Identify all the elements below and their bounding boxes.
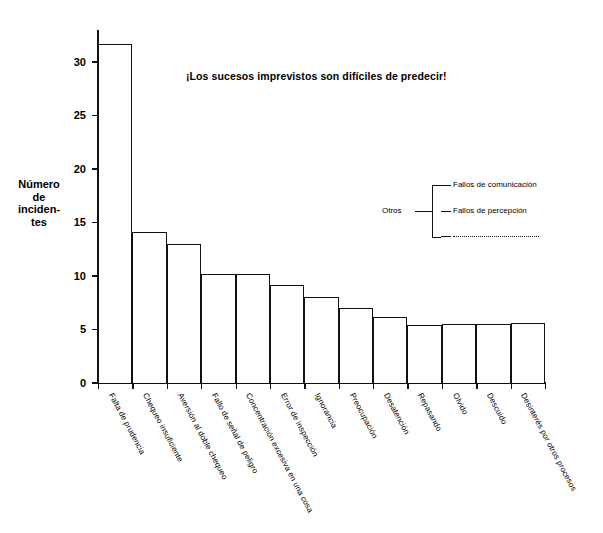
legend-connector-line — [415, 211, 433, 212]
legend-bracket — [432, 185, 441, 238]
legend-arm-3 — [441, 236, 451, 237]
legend-arm-1 — [441, 185, 451, 186]
x-axis-label: Ignorancia — [313, 392, 338, 430]
x-axis-label: Repasando — [416, 392, 443, 433]
bar-chart-figure: ¡Los sucesos imprevistos son difíciles d… — [0, 0, 603, 533]
legend-arm-2 — [441, 211, 451, 212]
legend-entry-dotted-line — [453, 236, 539, 238]
x-axis-labels: Falta de prudenciaChequeo insuficienteAv… — [0, 0, 603, 533]
x-axis-label: Descuido — [485, 392, 508, 426]
x-axis-label: Desatención — [382, 392, 410, 436]
legend-entry-perception: Fallos de percepción — [453, 207, 527, 215]
x-axis-label: Error de inspección — [279, 392, 319, 458]
legend-group-label: Otros — [382, 206, 402, 215]
x-axis-label: Preocupación — [347, 392, 378, 440]
x-axis-label: Desinterés por otros procesos — [519, 392, 578, 493]
x-axis-label: Concentración excesiva en una cosa — [244, 392, 314, 514]
legend-entry-communication: Fallos de comunicación — [453, 181, 537, 189]
x-axis-label: Falta de prudencia — [107, 392, 146, 456]
x-axis-label: Olvido — [451, 392, 469, 416]
legend: Otros Fallos de comunicación Fallos de p… — [382, 183, 562, 243]
x-axis-label: Chequeo insuficiente — [141, 392, 184, 463]
